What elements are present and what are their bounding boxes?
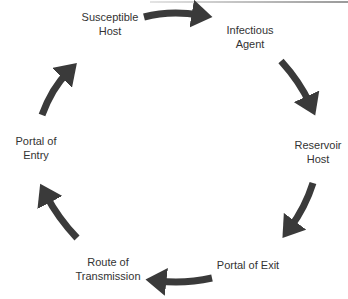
arrow-reservoir-to-exit-icon bbox=[290, 183, 313, 228]
arrow-susceptible-to-agent-icon bbox=[144, 13, 200, 17]
cycle-arrows bbox=[0, 0, 348, 299]
arrow-exit-to-route-icon bbox=[158, 278, 212, 282]
arrow-agent-to-reservoir-icon bbox=[281, 61, 310, 104]
arrow-route-to-entry-icon bbox=[46, 195, 77, 238]
arrow-entry-to-susceptible-icon bbox=[42, 72, 68, 115]
